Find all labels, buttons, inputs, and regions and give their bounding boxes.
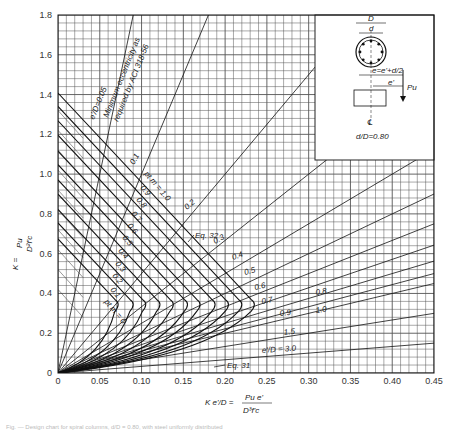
x-axis-label-den: D³f'c (243, 406, 259, 415)
y-axis-label-num: Pu (15, 238, 24, 248)
y-tick-label: 0.8 (39, 209, 52, 219)
ecc-label-0.6: 0.6 (254, 281, 267, 292)
ecc-label-3.0: e'/D = 3.0 (262, 344, 297, 355)
y-tick-label: 1.4 (39, 90, 52, 100)
y-tick-label: 0 (47, 368, 52, 378)
pm-curve-label: 0.8 (134, 196, 148, 211)
y-tick-label: 0.6 (39, 249, 52, 259)
x-tick-label: 0.05 (91, 376, 109, 386)
y-tick-label: 1.8 (39, 10, 52, 20)
ecc-label-1.0: 1.0 (315, 304, 328, 315)
ecc-label-0.1: 0.1 (128, 152, 141, 166)
x-tick-label: 0.15 (175, 376, 193, 386)
ecc-label-0.8: 0.8 (315, 286, 328, 297)
inset-label-d: d (369, 24, 374, 33)
y-tick-label: 0.2 (39, 328, 52, 338)
inset-label-e: e=e'+d/2 (372, 66, 403, 75)
ecc-label-0.4: 0.4 (231, 249, 245, 261)
pm-curve-label: 0.2 (110, 272, 124, 287)
pm-curve (58, 121, 228, 373)
inset-label-eprime: e' (388, 78, 394, 87)
ecc-label-0.5: 0.5 (243, 265, 257, 277)
x-tick-label: 0.45 (425, 376, 443, 386)
y-tick-label: 1.2 (39, 129, 52, 139)
inset-label-pu: Pu (407, 83, 417, 92)
interaction-chart: Dde=e'+d/2e'Pu℄d/D=0.8000.050.100.150.20… (0, 0, 452, 434)
x-axis-label-num: Pu e' (245, 393, 263, 402)
y-tick-label: 0.4 (39, 288, 52, 298)
x-tick-label: 0.40 (383, 376, 401, 386)
eq31-label: Eq. 31 (227, 361, 250, 370)
y-axis-label-den: D²f'c (25, 236, 34, 252)
y-axis-label: K = (11, 257, 20, 270)
x-tick-label: 0.25 (258, 376, 276, 386)
x-tick-label: 0.20 (216, 376, 234, 386)
x-tick-label: 0.30 (300, 376, 318, 386)
ecc-label-1.5: 1.5 (283, 327, 296, 337)
y-tick-label: 1.6 (39, 50, 52, 60)
x-tick-label: 0 (55, 376, 60, 386)
ecc-label-0.9: 0.9 (279, 308, 292, 318)
figure-caption: Fig. — Design chart for spiral columns, … (6, 424, 223, 430)
pm-curve-label: pt m = 0 (102, 297, 129, 326)
x-tick-label: 0.10 (133, 376, 151, 386)
inset-ratio-label: d/D=0.80 (356, 132, 389, 141)
x-axis-label: K e'/D = (205, 398, 234, 407)
y-tick-label: 1.0 (39, 169, 52, 179)
ecc-label-0.7: 0.7 (261, 295, 274, 306)
x-tick-label: 0.35 (342, 376, 360, 386)
